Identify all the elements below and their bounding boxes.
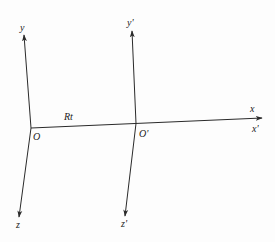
y-prime-label: y' (126, 17, 134, 28)
z-prime-axis (125, 124, 136, 217)
z-label: z (15, 219, 20, 230)
coordinate-frames-diagram: y y' x x' O O' Rt z z' (0, 0, 275, 242)
origin-o-prime-label: O' (139, 128, 149, 139)
y-prime-axis (132, 31, 136, 124)
origin-o-label: O (33, 131, 40, 142)
y-label: y (19, 22, 25, 33)
y-axis (24, 35, 31, 128)
x-label: x (249, 103, 255, 114)
diagram-svg: y y' x x' O O' Rt z z' (0, 0, 275, 242)
z-axis (19, 128, 31, 217)
z-prime-label: z' (120, 218, 128, 229)
x-prime-label: x' (251, 123, 259, 134)
displacement-rt-label: Rt (63, 111, 73, 122)
